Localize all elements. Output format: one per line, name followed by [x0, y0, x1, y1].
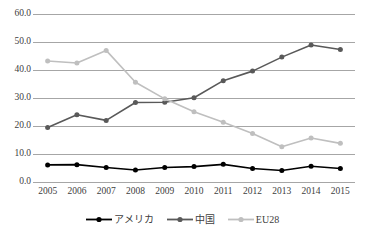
- data-point: [74, 162, 79, 167]
- data-point: [221, 120, 226, 125]
- x-tick-label: 2008: [120, 186, 150, 197]
- x-tick-label: 2009: [150, 186, 180, 197]
- legend-label: EU28: [256, 214, 279, 225]
- data-point: [192, 164, 197, 169]
- data-point: [192, 109, 197, 114]
- data-point: [309, 136, 314, 141]
- data-point: [192, 95, 197, 100]
- data-point: [45, 125, 50, 130]
- x-tick-label: 2014: [296, 186, 326, 197]
- data-point: [279, 168, 284, 173]
- data-point: [45, 162, 50, 167]
- data-point: [279, 144, 284, 149]
- data-point: [250, 69, 255, 74]
- x-tick-label: 2005: [33, 186, 63, 197]
- x-tick-label: 2010: [179, 186, 209, 197]
- legend-item[interactable]: EU28: [228, 214, 279, 225]
- data-point: [74, 112, 79, 117]
- legend-marker-icon: [167, 215, 193, 224]
- data-point: [309, 164, 314, 169]
- legend-item[interactable]: 中国: [167, 214, 215, 225]
- data-point: [45, 59, 50, 64]
- data-point: [162, 165, 167, 170]
- legend-marker-icon: [86, 215, 112, 224]
- data-point: [338, 141, 343, 146]
- legend-label: 中国: [195, 214, 215, 225]
- chart-legend: アメリカ中国EU28: [0, 208, 365, 230]
- data-point: [250, 166, 255, 171]
- x-axis: 2005200620072008200920102011201220132014…: [33, 186, 355, 200]
- data-point: [338, 166, 343, 171]
- data-point: [104, 165, 109, 170]
- series-アメリカ: [45, 162, 343, 173]
- data-point: [133, 80, 138, 85]
- data-point: [133, 100, 138, 105]
- x-tick-label: 2012: [238, 186, 268, 197]
- data-point: [250, 131, 255, 136]
- data-point: [279, 55, 284, 60]
- data-point: [338, 47, 343, 52]
- x-tick-label: 2006: [62, 186, 92, 197]
- legend-marker-icon: [228, 215, 254, 224]
- data-point: [104, 118, 109, 123]
- x-tick-label: 2011: [208, 186, 238, 197]
- legend-item[interactable]: アメリカ: [86, 214, 154, 225]
- data-point: [221, 78, 226, 83]
- data-point: [309, 43, 314, 48]
- x-tick-label: 2007: [91, 186, 121, 197]
- line-chart: 0.010.020.030.040.050.060.0 200520062007…: [0, 0, 365, 233]
- data-point: [104, 48, 109, 53]
- x-tick-label: 2015: [325, 186, 355, 197]
- data-point: [221, 162, 226, 167]
- legend-label: アメリカ: [114, 214, 154, 225]
- x-tick-label: 2013: [267, 186, 297, 197]
- data-point: [74, 61, 79, 66]
- series-中国: [45, 43, 343, 130]
- data-point: [133, 167, 138, 172]
- data-point: [162, 96, 167, 101]
